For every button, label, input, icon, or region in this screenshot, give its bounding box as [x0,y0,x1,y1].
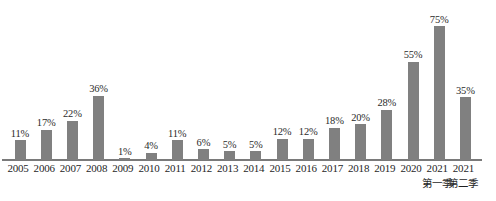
bar-rect [224,151,235,160]
bar-group: 11% [164,0,190,160]
bar-chart-plot-area: 11%17%22%36%1%4%11%6%5%5%12%12%18%20%28%… [0,0,496,201]
bar-value-label: 5% [223,139,237,150]
bar-group: 5% [243,0,269,160]
bar-group: 55% [400,0,426,160]
bar-value-label: 22% [63,108,82,119]
bar-group: 22% [59,0,85,160]
bar-group: 6% [190,0,216,160]
bar-rect [172,140,183,160]
bar-value-label: 1% [118,146,132,157]
bar-group: 35% [452,0,478,160]
bar-group: 11% [7,0,33,160]
bar-rect [250,151,261,160]
bar-value-label: 55% [404,49,423,60]
bar-rect [277,139,288,160]
bar-rect [67,121,78,160]
x-tick-label: 2021 [448,162,478,175]
bar-rect [119,158,130,160]
bar-rect [381,110,392,160]
bar-value-label: 12% [273,126,292,137]
bar-group: 4% [138,0,164,160]
chart-page: 11%17%22%36%1%4%11%6%5%5%12%12%18%20%28%… [0,0,496,201]
bar-rect [408,62,419,160]
bar-group: 18% [321,0,347,160]
bar-value-label: 36% [89,83,108,94]
bar-value-label: 20% [351,112,370,123]
bar-rect [460,97,471,160]
bar-rect [93,96,104,160]
bar-group: 75% [426,0,452,160]
bar-rect [434,26,445,160]
bar-group: 5% [217,0,243,160]
bar-value-label: 4% [144,140,158,151]
bar-rect [15,140,26,160]
bar-group: 36% [86,0,112,160]
bar-rect [329,128,340,160]
bar-group: 28% [374,0,400,160]
bar-value-label: 11% [168,128,186,139]
bar-group: 17% [33,0,59,160]
bar-value-label: 17% [37,117,56,128]
bar-value-label: 6% [197,137,211,148]
bar-group: 20% [348,0,374,160]
x-tick-sublabel: 第二季 [448,177,478,190]
bar-value-label: 35% [456,85,475,96]
bar-value-label: 75% [430,14,449,25]
bar-group: 12% [269,0,295,160]
bar-rect [355,124,366,160]
bar-rect [198,149,209,160]
bar-rect [41,130,52,160]
bar-group: 1% [112,0,138,160]
bar-value-label: 12% [299,126,318,137]
bar-value-label: 11% [11,128,29,139]
bar-value-label: 5% [249,139,263,150]
bar-group: 12% [295,0,321,160]
bar-value-label: 28% [377,97,396,108]
bar-rect [303,139,314,160]
bar-rect [146,153,157,160]
bar-value-label: 18% [325,115,344,126]
